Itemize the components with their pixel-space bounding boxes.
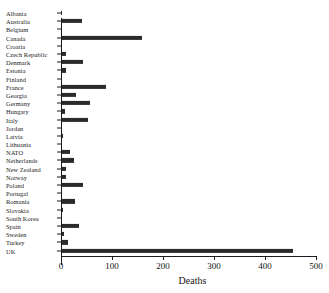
category-rows: AlbaniaAustraliaBelgiumCanadaCroatiaCzec… [0,9,329,255]
x-axis-tick-label: 100 [105,261,119,272]
chart-row: Turkey [0,238,329,246]
bar-chart-figure: AlbaniaAustraliaBelgiumCanadaCroatiaCzec… [0,0,329,293]
category-label: Norway [6,173,27,180]
category-label: Portugal [6,190,28,197]
category-label: Denmark [6,59,30,66]
chart-row: Hungary [0,107,329,115]
x-axis-tick [61,256,62,260]
x-axis-tick-label: 300 [207,261,221,272]
bar [61,150,70,154]
category-label: Czech Republic [6,51,47,58]
x-axis-tick-label: 500 [309,261,323,272]
bar [61,224,79,228]
chart-row: Albania [0,9,329,17]
chart-row: Canada [0,34,329,42]
chart-row: Netherlands [0,156,329,164]
bar [61,93,76,97]
bar [61,101,90,105]
x-axis-line [61,256,317,257]
chart-row: Lithuania [0,140,329,148]
chart-row: Germany [0,99,329,107]
chart-row: Romania [0,197,329,205]
chart-row: New Zealand [0,165,329,173]
chart-row: Spain [0,222,329,230]
chart-row: UK [0,246,329,254]
chart-row: Italy [0,115,329,123]
chart-row: Latvia [0,132,329,140]
category-label: Jordan [6,124,23,131]
category-label: Sweden [6,231,27,238]
y-axis-tick [57,13,61,14]
bar [61,52,66,56]
category-label: Canada [6,34,25,41]
chart-row: France [0,83,329,91]
bar [61,199,75,203]
category-label: France [6,83,24,90]
bar [61,109,65,113]
chart-row: Australia [0,17,329,25]
category-label: Hungary [6,108,29,115]
bar [61,68,66,72]
bar [61,11,62,15]
chart-row: Estonia [0,66,329,74]
chart-row: Denmark [0,58,329,66]
x-axis-tick [265,256,266,260]
category-label: Finland [6,75,26,82]
bar [61,248,293,252]
bar [61,36,142,40]
category-label: Georgia [6,91,27,98]
x-axis-tick [112,256,113,260]
chart-row: Sweden [0,230,329,238]
category-label: South Korea [6,214,39,221]
category-label: Germany [6,100,30,107]
chart-row: Portugal [0,189,329,197]
bar [61,183,83,187]
chart-row: Norway [0,173,329,181]
chart-row: NATO [0,148,329,156]
chart-row: Georgia [0,91,329,99]
y-axis-line [61,18,62,265]
category-label: Albania [6,10,27,17]
category-label: Slovakia [6,206,29,213]
category-label: Poland [6,182,24,189]
x-axis-tick-label: 200 [156,261,170,272]
cut-off-title [0,0,329,4]
chart-row: Finland [0,75,329,83]
x-axis-tick [316,256,317,260]
chart-row: Belgium [0,25,329,33]
bar [61,240,68,244]
x-axis-tick [214,256,215,260]
category-label: NATO [6,149,23,156]
chart-row: Czech Republic [0,50,329,58]
chart-row: Croatia [0,42,329,50]
x-axis-label: Deaths [0,275,329,286]
chart-row: South Korea [0,214,329,222]
category-label: Spain [6,222,21,229]
x-axis-tick-label: 400 [258,261,272,272]
bar [61,117,88,121]
category-label: New Zealand [6,165,41,172]
category-label: Turkey [6,239,25,246]
chart-row: Jordan [0,124,329,132]
category-label: Belgium [6,26,28,33]
bar [61,158,74,162]
chart-row: Slovakia [0,206,329,214]
category-label: Italy [6,116,18,123]
category-label: Netherlands [6,157,37,164]
bar [61,60,83,64]
chart-row: Poland [0,181,329,189]
x-axis-tick [163,256,164,260]
category-label: Latvia [6,132,23,139]
category-label: Lithuania [6,141,31,148]
x-axis-tick-label: 0 [59,261,64,272]
bar [61,175,66,179]
bar [61,85,106,89]
bar [61,19,82,23]
category-label: Romania [6,198,29,205]
bar [61,167,66,171]
category-label: UK [6,247,15,254]
category-label: Croatia [6,42,25,49]
category-label: Estonia [6,67,26,74]
plot-area: AlbaniaAustraliaBelgiumCanadaCroatiaCzec… [0,9,329,255]
category-label: Australia [6,18,30,25]
